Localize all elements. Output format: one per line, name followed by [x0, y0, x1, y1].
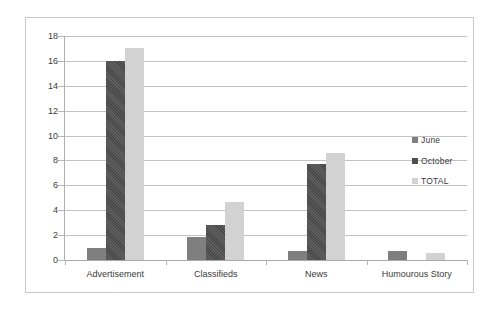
- bar[interactable]: [225, 202, 244, 260]
- y-axis-tick-label: 16: [36, 56, 58, 65]
- bar-slot: [288, 36, 307, 260]
- bar[interactable]: [87, 248, 106, 260]
- bar-plot-area: [65, 36, 467, 260]
- x-axis-category-label: Classifieds: [166, 270, 267, 279]
- bar-slot: [206, 36, 225, 260]
- bar-slot: [125, 36, 144, 260]
- bar-slot: [106, 36, 125, 260]
- bar-slot: [87, 36, 106, 260]
- bar[interactable]: [187, 237, 206, 260]
- plot-wrapper: 181614121086420 AdvertisementClassifieds…: [26, 18, 473, 292]
- legend-item-label: October: [421, 157, 453, 166]
- category-separator: [166, 260, 167, 265]
- category-separator: [266, 260, 267, 265]
- y-axis-tick-labels: 181614121086420: [26, 18, 58, 292]
- y-axis-tick-label: 10: [36, 131, 58, 140]
- bar-slot: [225, 36, 244, 260]
- y-axis-tick-label: 12: [36, 106, 58, 115]
- bar-slot: [307, 36, 326, 260]
- bar[interactable]: [288, 251, 307, 260]
- bar[interactable]: [106, 61, 125, 260]
- bar-slot: [187, 36, 206, 260]
- legend-item-label: TOTAL: [421, 177, 449, 186]
- y-axis-tick-label: 2: [36, 231, 58, 240]
- bar[interactable]: [326, 153, 345, 260]
- bar[interactable]: [307, 164, 326, 260]
- bar-slot: [326, 36, 345, 260]
- x-axis-category-label: Advertisement: [65, 270, 166, 279]
- category-separator: [65, 260, 66, 265]
- y-axis-tick-label: 6: [36, 181, 58, 190]
- bar[interactable]: [125, 48, 144, 260]
- legend-swatch-icon: [412, 158, 418, 164]
- bar[interactable]: [388, 251, 407, 260]
- category-separator: [467, 260, 468, 265]
- legend-item[interactable]: June: [412, 136, 453, 145]
- x-axis-category-labels: AdvertisementClassifiedsNewsHumourous St…: [65, 270, 467, 279]
- chart-legend: JuneOctoberTOTAL: [412, 136, 453, 186]
- y-axis-tick-label: 0: [36, 256, 58, 265]
- legend-item-label: June: [421, 136, 440, 145]
- category-separator: [367, 260, 368, 265]
- bar-group: [166, 36, 267, 260]
- y-axis-tick-label: 18: [36, 32, 58, 41]
- chart-frame: 181614121086420 AdvertisementClassifieds…: [25, 17, 474, 293]
- bar[interactable]: [206, 225, 225, 260]
- bar-group: [65, 36, 166, 260]
- category-separators: [65, 260, 467, 265]
- legend-swatch-icon: [412, 137, 418, 143]
- bar[interactable]: [426, 253, 445, 260]
- y-axis-tick-label: 8: [36, 156, 58, 165]
- bar-slot: [388, 36, 407, 260]
- y-axis-tick-label: 4: [36, 206, 58, 215]
- legend-item[interactable]: TOTAL: [412, 177, 453, 186]
- x-axis-category-label: News: [266, 270, 367, 279]
- y-axis-tick-label: 14: [36, 81, 58, 90]
- legend-item[interactable]: October: [412, 157, 453, 166]
- x-axis-category-label: Humourous Story: [367, 270, 468, 279]
- bar-group: [266, 36, 367, 260]
- legend-swatch-icon: [412, 178, 418, 184]
